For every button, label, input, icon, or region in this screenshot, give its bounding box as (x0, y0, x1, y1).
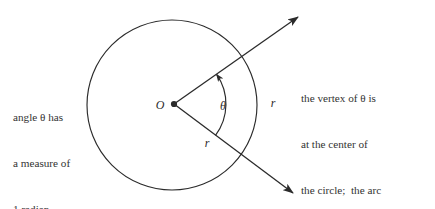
figure-page: O θ r r angle θ has a measure of 1 radia… (0, 0, 435, 209)
vertex-dot (171, 101, 177, 107)
caption-left-line-3: 1 radian (13, 202, 70, 209)
caption-left-line-2: a measure of (13, 156, 70, 171)
caption-right: the vertex of θ is at the center of the … (301, 61, 399, 209)
radius-label-lower: r (205, 136, 210, 150)
theta-label: θ (220, 99, 226, 113)
radius-label-right: r (271, 96, 276, 110)
center-label-o: O (156, 98, 165, 112)
upper-ray (174, 17, 298, 104)
lower-ray (174, 104, 293, 193)
caption-right-line-3: the circle; the arc (301, 183, 399, 198)
caption-right-line-2: at the center of (301, 137, 399, 152)
caption-right-line-1: the vertex of θ is (301, 91, 399, 106)
caption-left: angle θ has a measure of 1 radian (13, 80, 70, 209)
caption-left-line-1: angle θ has (13, 110, 70, 125)
